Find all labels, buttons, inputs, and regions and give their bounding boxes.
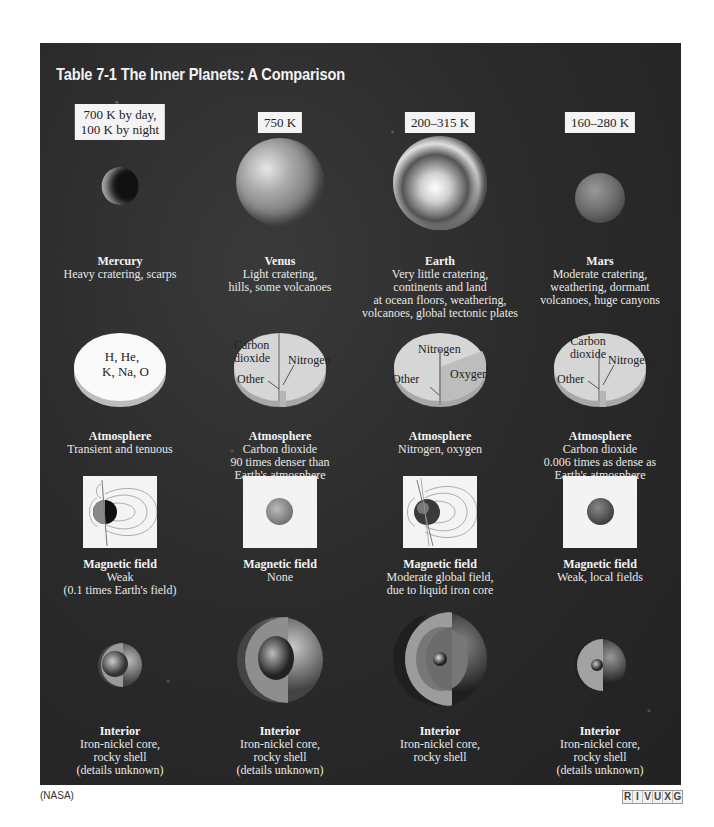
wavelength-band-indicator: R I V U X G [622,790,683,804]
magnetic-field-line: None [200,571,360,584]
interior-caption: Interior Iron-nickel core, rocky shell (… [200,725,360,777]
atmosphere-line: Nitrogen, oxygen [360,443,520,456]
temperature-line: 100 K by night [81,122,159,137]
column-mars: 160–280 K Mars Moderate cratering, weath… [520,43,680,785]
mars-image [575,173,625,223]
temperature-line: 700 K by day, [81,107,159,122]
surface-line: hills, some volcanoes [200,281,360,294]
temperature-line: 200–315 K [411,115,469,130]
magnetic-field-caption: Magnetic field Weak, local fields [520,558,680,584]
interior-cutaway [573,638,627,692]
temperature-line: 750 K [264,115,296,130]
band-r: R [623,791,633,803]
pie-label-other: Other [392,373,419,385]
comparison-table-panel: Table 7-1 The Inner Planets: A Compariso… [40,43,681,785]
pie-label-nitrogen: Nitrogen [608,354,651,366]
interior-line: rocky shell [360,751,520,764]
magnetic-field-caption: Magnetic field None [200,558,360,584]
atmosphere-caption: Atmosphere Carbon dioxide 90 times dense… [200,430,360,482]
magnetic-field-diagram [243,476,317,548]
interior-cutaway [236,616,324,704]
magnetic-field-line: (0.1 times Earth's field) [40,584,200,597]
pie-label-composition: H, He, K, Na, O [102,349,142,379]
magnetic-field-caption: Magnetic field Moderate global field, du… [360,558,520,597]
temperature-label: 750 K [258,112,302,133]
band-i: I [633,791,643,803]
surface-caption: Mercury Heavy cratering, scarps [40,255,200,281]
pie-label-line: K, Na, O [102,364,142,379]
mars-thumbnail [587,498,614,525]
column-earth: 200–315 K Earth Very little cratering, c… [360,43,520,785]
image-credit: (NASA) [40,790,74,801]
pie-label-other: Other [557,373,584,385]
surface-line: volcanoes, global tectonic plates [360,307,520,320]
interior-line: (details unknown) [520,764,680,777]
surface-line: Heavy cratering, scarps [40,268,200,281]
temperature-label: 700 K by day, 100 K by night [75,104,165,140]
temperature-line: 160–280 K [571,115,629,130]
interior-line: (details unknown) [200,764,360,777]
surface-caption: Mars Moderate cratering, weathering, dor… [520,255,680,307]
interior-cutaway [392,611,488,707]
column-venus: 750 K Venus Light cratering, hills, some… [200,43,360,785]
pie-label-line: dioxide [234,352,270,365]
pie-label-other: Other [237,373,264,385]
magnetic-field-line: due to liquid iron core [360,584,520,597]
interior-caption: Interior Iron-nickel core, rocky shell (… [520,725,680,777]
pie-label-oxygen: Oxygen [450,368,488,380]
surface-line: volcanoes, huge canyons [520,294,680,307]
pie-label-carbon-dioxide: Carbon dioxide [570,335,606,361]
magnetic-field-line: Weak, local fields [520,571,680,584]
pie-label-line: dioxide [570,348,606,361]
magnetic-field-diagram [403,476,477,548]
mercury-image [102,167,139,205]
interior-caption: Interior Iron-nickel core, rocky shell [360,725,520,764]
column-mercury: 700 K by day, 100 K by night Mercury Hea… [40,43,200,785]
atmosphere-caption: Atmosphere Carbon dioxide 0.006 times as… [520,430,680,482]
atmosphere-caption: Atmosphere Transient and tenuous [40,430,200,456]
interior-caption: Interior Iron-nickel core, rocky shell (… [40,725,200,777]
pie-label-nitrogen: Nitrogen [418,343,461,355]
atmosphere-line: Transient and tenuous [40,443,200,456]
interior-cutaway [97,642,143,688]
pie-label-carbon-dioxide: Carbon dioxide [234,339,270,365]
band-u: U [653,791,663,803]
temperature-label: 160–280 K [565,112,635,133]
venus-thumbnail [266,498,293,525]
atmosphere-caption: Atmosphere Nitrogen, oxygen [360,430,520,456]
surface-caption: Venus Light cratering, hills, some volca… [200,255,360,294]
interior-line: (details unknown) [40,764,200,777]
pie-label-line: H, He, [102,349,142,364]
band-g: G [673,791,682,803]
magnetic-field-diagram [563,476,637,548]
band-x: X [663,791,673,803]
magnetic-field-caption: Magnetic field Weak (0.1 times Earth's f… [40,558,200,597]
magnetic-field-diagram [83,476,157,548]
temperature-label: 200–315 K [405,112,475,133]
band-v: V [643,791,653,803]
earth-image [393,136,487,230]
venus-image [236,138,324,226]
surface-caption: Earth Very little cratering, continents … [360,255,520,320]
pie-label-nitrogen: Nitrogen [288,354,331,366]
